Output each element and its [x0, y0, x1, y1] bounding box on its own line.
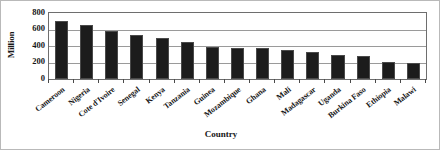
- x-tick-label: Cameroon: [0, 85, 66, 150]
- x-axis-title: Country: [1, 129, 440, 139]
- x-tick-label: Nigeria: [0, 85, 91, 150]
- x-tick-label: Ethiopia: [230, 85, 393, 150]
- bar-chart-figure: Million 0200400600800 CameroonNigeriaCot…: [0, 0, 440, 150]
- bar: [231, 48, 244, 79]
- bar: [281, 50, 294, 79]
- y-tick-label: 800: [21, 8, 45, 17]
- x-tick-label: Senegal: [0, 85, 142, 150]
- bar: [80, 25, 93, 79]
- x-tick-mark: [224, 79, 225, 83]
- plot-area: [48, 12, 427, 80]
- x-tick-mark: [324, 79, 325, 83]
- x-tick-label: Madagascar: [154, 85, 317, 150]
- x-tick-label: Uganda: [179, 85, 342, 150]
- x-tick-mark: [274, 79, 275, 83]
- x-tick-mark: [48, 79, 49, 83]
- bar: [55, 21, 68, 79]
- x-tick-mark: [249, 79, 250, 83]
- y-tick-label: 200: [21, 57, 45, 66]
- x-tick-label: Mozambique: [79, 85, 242, 150]
- bar: [331, 55, 344, 79]
- bar: [156, 38, 169, 79]
- x-tick-mark: [174, 79, 175, 83]
- x-tick-mark: [98, 79, 99, 83]
- x-tick-label: Burkina Faso: [205, 85, 368, 150]
- bar: [256, 48, 269, 79]
- bar: [130, 35, 143, 79]
- y-tick-label: 400: [21, 41, 45, 50]
- x-tick-label: Tanzania: [29, 85, 192, 150]
- x-tick-mark: [350, 79, 351, 83]
- x-tick-mark: [149, 79, 150, 83]
- x-tick-label: Mali: [129, 85, 292, 150]
- x-tick-label: Ghana: [104, 85, 267, 150]
- x-tick-label: Kenya: [4, 85, 167, 150]
- x-tick-label: Cote d'Ivoire: [0, 85, 116, 150]
- y-tick-label: 0: [21, 74, 45, 83]
- x-tick-mark: [123, 79, 124, 83]
- bar: [382, 62, 395, 79]
- y-axis-tick-labels: 0200400600800: [21, 7, 45, 81]
- bar: [206, 47, 219, 79]
- bar: [105, 31, 118, 79]
- x-tick-label: Malawi: [255, 85, 418, 150]
- bar-series: [49, 13, 426, 79]
- x-tick-mark: [425, 79, 426, 83]
- y-axis-title: Million: [6, 19, 18, 71]
- x-tick-mark: [199, 79, 200, 83]
- bar: [357, 56, 370, 80]
- bar: [407, 63, 420, 80]
- x-tick-label: Guinea: [54, 85, 217, 150]
- x-tick-mark: [400, 79, 401, 83]
- x-tick-mark: [375, 79, 376, 83]
- bar: [181, 42, 194, 79]
- x-tick-mark: [299, 79, 300, 83]
- bar: [306, 52, 319, 79]
- y-tick-label: 600: [21, 24, 45, 33]
- x-tick-mark: [73, 79, 74, 83]
